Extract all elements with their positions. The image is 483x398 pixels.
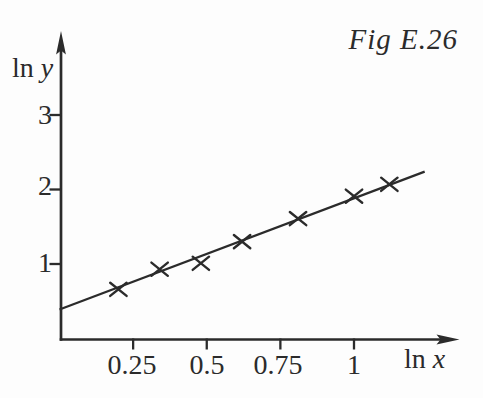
y-tick-label-1: 1 [12, 249, 52, 277]
figure-caption-text: Fig E.26 [349, 23, 459, 55]
x-tick-label-0p75: 0.75 [254, 351, 303, 379]
y-tick-label-3: 3 [12, 101, 52, 129]
figure-caption: Fig E.26 [349, 23, 459, 56]
y-axis-label-variable: y [41, 52, 53, 83]
x-axis-label-variable: x [433, 343, 445, 374]
log-log-plot-canvas [0, 0, 483, 398]
scanned-figure-page: Fig E.26 lny lnx 3 2 1 0.25 0.5 0.75 1 [0, 0, 483, 398]
x-axis-label-prefix: ln [404, 343, 426, 374]
x-axis-label: lnx [404, 343, 445, 375]
x-tick-label-0p25: 0.25 [108, 351, 157, 379]
y-axis-label: lny [12, 52, 53, 84]
y-tick-label-2: 2 [12, 172, 52, 200]
x-tick-label-1: 1 [347, 351, 361, 379]
x-tick-label-0p5: 0.5 [190, 351, 225, 379]
y-axis-label-prefix: ln [12, 52, 34, 83]
